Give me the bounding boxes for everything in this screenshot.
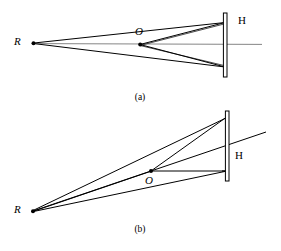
panel-a-label-O: O	[135, 26, 143, 37]
panel-b-caption: (b)	[110, 225, 170, 235]
panel-a-label-H: H	[238, 15, 246, 26]
panel-b-point-R	[31, 209, 35, 213]
panel-a-ray-R-to-plate-top	[34, 23, 225, 44]
panel-b-point-O	[149, 169, 153, 173]
panel-b-label-H: H	[235, 150, 243, 161]
panel-a-caption: (a)	[110, 93, 170, 103]
panel-a-point-R	[32, 41, 36, 45]
panel-a-graphics	[32, 13, 263, 77]
panel-b-ray-R-to-plate-top	[33, 118, 227, 211]
panel-b-label-R: R	[14, 204, 21, 215]
panel-b-plate-H	[225, 111, 229, 181]
panel-b-ray-R-to-O	[34, 171, 152, 211]
panel-b-ray-O-to-plate-top	[151, 118, 226, 172]
panel-a-ray-R-to-plate-bottom	[34, 44, 225, 67]
panel-b-label-O: O	[145, 175, 153, 186]
panel-a-ray-O-to-plate-top	[140, 23, 225, 45]
figure-root: R O H R O H (a) (b)	[0, 0, 281, 251]
panel-a-plate-H	[223, 13, 227, 77]
panel-b-graphics	[31, 111, 266, 213]
panel-a-optical-axis	[36, 44, 262, 45]
panel-a-point-O	[138, 43, 142, 47]
panel-b-ray-R-to-plate-bottom	[34, 171, 228, 212]
figure-canvas	[0, 0, 281, 251]
panel-a-label-R: R	[14, 36, 21, 47]
panel-a-ray-plate-bottom-to-O-upper	[140, 46, 224, 66]
